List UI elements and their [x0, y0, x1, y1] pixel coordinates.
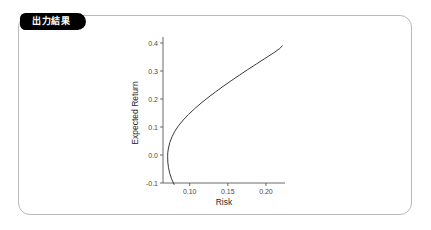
output-result-tab[interactable]: 出力結果 [20, 13, 86, 30]
output-result-card [18, 15, 412, 215]
screenshot-root: 出力結果 -0.10.00.10.20.30.40.100.150.20Risk… [0, 0, 431, 230]
output-result-tab-label: 出力結果 [32, 17, 70, 26]
